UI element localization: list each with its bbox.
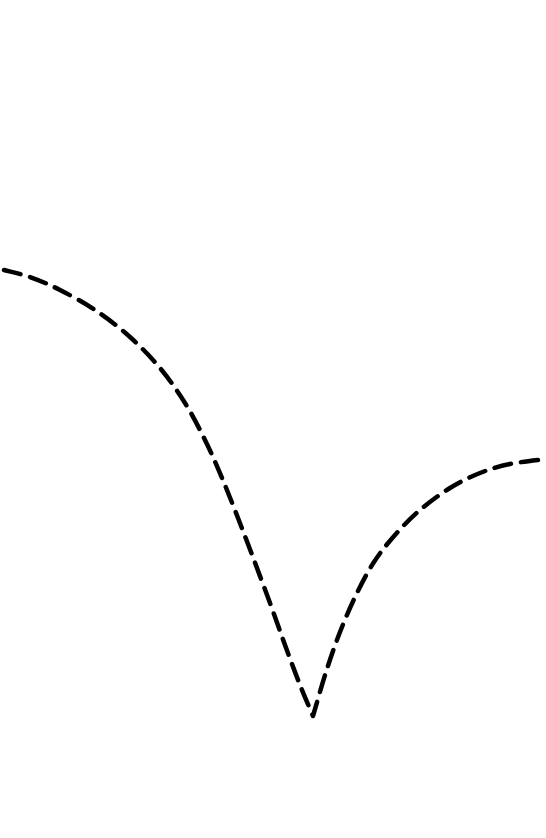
dashed-curve-plot [0, 0, 546, 838]
plot-area [0, 0, 546, 838]
dashed-curve-line [4, 270, 546, 716]
